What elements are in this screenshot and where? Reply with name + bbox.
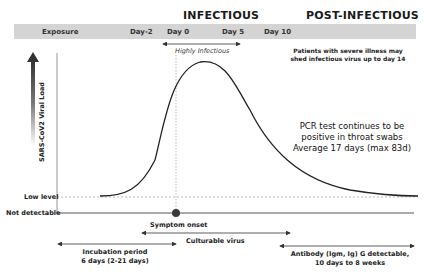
y-axis-label: SARS-CoV2 Viral Load	[38, 72, 46, 172]
not-detectable-label: Not detectable	[6, 209, 61, 217]
incubation-period-note: Incubation period 6 days (2-21 days)	[70, 248, 160, 266]
severe-illness-line1: Patients with severe illness may	[282, 47, 414, 55]
severe-illness-line2: shed infectious virus up to day 14	[282, 55, 414, 63]
symptom-onset-dot	[172, 209, 180, 217]
severe-illness-note: Patients with severe illness may shed in…	[282, 47, 414, 63]
culturable-virus-label: Culturable virus	[186, 237, 245, 245]
antibody-line2: 10 days to 8 weeks	[290, 259, 410, 268]
pcr-line2: positive in throat swabs	[290, 132, 414, 143]
pcr-line3: Average 17 days (max 83d)	[290, 143, 414, 154]
highly-infectious-label: Highly Infectious	[175, 47, 229, 55]
pcr-note: PCR test continues to be positive in thr…	[290, 121, 414, 154]
symptom-onset-label: Symptom onset	[150, 221, 207, 229]
antibody-line1: Antibody (Igm, Ig) G detectable,	[290, 250, 410, 259]
pcr-line1: PCR test continues to be	[290, 121, 414, 132]
incubation-line1: Incubation period	[70, 248, 160, 257]
incubation-line2: 6 days (2-21 days)	[70, 257, 160, 266]
low-level-label: Low level	[24, 193, 58, 201]
antibody-note: Antibody (Igm, Ig) G detectable, 10 days…	[290, 250, 410, 268]
